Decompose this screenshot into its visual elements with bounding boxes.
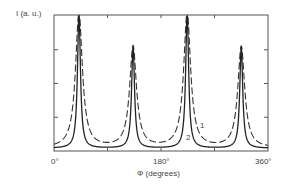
curve-2-solid xyxy=(54,16,268,148)
x-tick-0: 0° xyxy=(51,157,59,166)
curve-label-1: 1 xyxy=(200,121,204,130)
x-axis-label: Φ (degrees) xyxy=(137,169,180,178)
chart-plot xyxy=(0,0,286,188)
y-axis-label: I (a. u.) xyxy=(16,9,41,18)
curve-1-dashed xyxy=(54,16,268,145)
curve-label-2: 2 xyxy=(186,133,190,142)
axis-ticks xyxy=(54,15,268,151)
plot-frame xyxy=(54,15,268,151)
x-tick-360: 360° xyxy=(255,157,272,166)
x-tick-180: 180° xyxy=(153,157,170,166)
